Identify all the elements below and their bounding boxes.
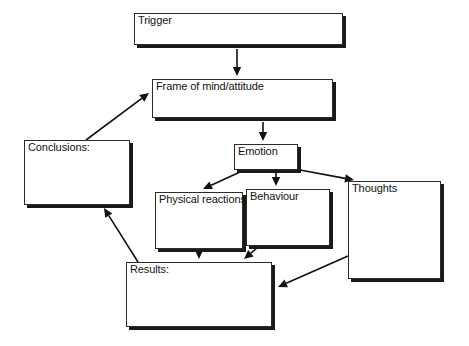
node-label-thoughts: Thoughts — [352, 182, 397, 195]
node-thoughts[interactable]: Thoughts — [348, 181, 441, 279]
arrow-behaviour-to-results — [244, 248, 257, 259]
arrow-thoughts-to-results — [278, 256, 348, 287]
node-label-emotion: Emotion — [238, 145, 278, 158]
diagram-canvas: Trigger Frame of mind/attitude Emotion P… — [0, 0, 469, 346]
node-label-frame-of-mind: Frame of mind/attitude — [156, 80, 264, 93]
arrow-frame-to-emotion — [259, 122, 267, 141]
arrow-conclusions-to-frame — [86, 93, 149, 140]
node-label-trigger: Trigger — [138, 14, 172, 27]
node-trigger[interactable]: Trigger — [134, 13, 343, 45]
arrow-trigger-to-frame — [233, 49, 241, 76]
node-physical-reactions[interactable]: Physical reactions — [155, 192, 243, 249]
node-label-behaviour: Behaviour — [250, 190, 299, 203]
node-conclusions[interactable]: Conclusions: — [24, 140, 130, 205]
node-frame-of-mind[interactable]: Frame of mind/attitude — [152, 79, 333, 118]
arrow-emotion-to-physical — [203, 172, 240, 189]
arrow-physical-to-results — [195, 250, 203, 259]
node-results[interactable]: Results: — [126, 262, 272, 327]
node-behaviour[interactable]: Behaviour — [246, 189, 330, 246]
node-label-physical-reactions: Physical reactions — [159, 193, 246, 206]
node-label-conclusions: Conclusions: — [28, 141, 90, 154]
arrow-emotion-to-thoughts — [300, 170, 354, 182]
node-emotion[interactable]: Emotion — [234, 144, 298, 170]
arrow-emotion-to-behaviour — [272, 172, 280, 186]
node-label-results: Results: — [130, 263, 169, 276]
arrow-results-to-conclusions — [104, 208, 138, 262]
